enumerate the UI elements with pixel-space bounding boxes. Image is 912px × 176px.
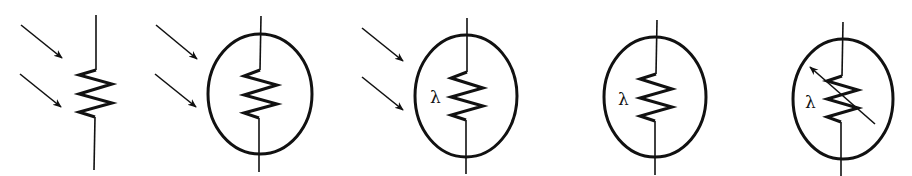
light-arrows-icon <box>155 25 197 107</box>
lambda-label: λ <box>430 87 441 107</box>
symbol-ldr-circle-lambda-variable: λ <box>793 22 893 176</box>
lambda-label: λ <box>805 92 816 112</box>
symbol-ldr-circle-lambda: λ <box>604 20 706 175</box>
symbol-ldr-arrows-circle-lambda: λ <box>362 18 517 174</box>
symbol-ldr-arrows-no-circle <box>20 15 112 170</box>
lambda-label: λ <box>618 89 629 109</box>
ldr-symbols-diagram: λ λ λ <box>0 0 912 176</box>
resistor-icon <box>451 18 483 174</box>
symbol-ldr-arrows-circle <box>155 16 312 172</box>
resistor-icon <box>244 16 277 172</box>
light-arrows-icon <box>362 28 403 110</box>
resistor-icon <box>827 22 858 176</box>
resistor-icon <box>640 20 672 175</box>
resistor-icon <box>79 15 112 170</box>
light-arrows-icon <box>20 25 62 107</box>
